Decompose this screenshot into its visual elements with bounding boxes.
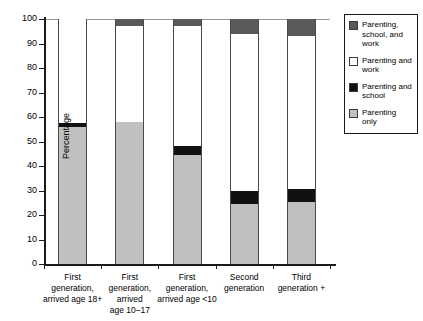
bar-segment-parenting-school-and-work[interactable] (174, 19, 201, 26)
bar-segment-parenting-school-and-work[interactable] (116, 19, 143, 26)
stacked-bar[interactable] (173, 19, 202, 264)
x-axis-label: Thirdgeneration + (267, 272, 336, 294)
x-tick-mark (216, 264, 217, 269)
bar-segment-parenting-school-and-work[interactable] (231, 19, 258, 34)
legend-item[interactable]: Parenting and school (349, 82, 413, 101)
legend-label: Parenting only (362, 108, 413, 127)
bar-segment-parenting-and-work[interactable] (116, 26, 143, 122)
bar-slot (115, 19, 144, 264)
legend-swatch-parenting-only (349, 109, 358, 118)
y-tick-mark (39, 93, 44, 94)
y-tick-mark (39, 166, 44, 167)
y-tick-label: 70 (4, 87, 37, 98)
y-tick-label: 80 (4, 62, 37, 73)
x-axis-label-line: Third (267, 272, 336, 283)
y-tick-label: 20 (4, 209, 37, 220)
chart-figure: 0102030405060708090100 Percentage Firstg… (0, 0, 423, 321)
x-tick-mark (330, 264, 331, 269)
legend-item[interactable]: Parenting only (349, 108, 413, 127)
bar-segment-parenting-only[interactable] (231, 204, 258, 264)
y-tick-label: 10 (4, 234, 37, 245)
x-tick-mark (158, 264, 159, 269)
bar-segment-parenting-only[interactable] (174, 155, 201, 264)
x-axis-label-line: age 10–17 (95, 305, 164, 316)
bar-segment-parenting-and-school[interactable] (231, 191, 258, 204)
y-tick-mark (39, 19, 44, 20)
x-axis-label-line: generation + (267, 283, 336, 294)
legend-swatch-parenting-and-school (349, 83, 358, 92)
legend-item[interactable]: Parenting and work (349, 56, 413, 75)
legend-label: Parenting, school, and work (362, 20, 413, 49)
y-tick-mark (39, 44, 44, 45)
y-tick-mark (39, 191, 44, 192)
bar-segment-parenting-and-work[interactable] (174, 26, 201, 146)
bar-segment-parenting-and-work[interactable] (231, 34, 258, 191)
legend-label: Parenting and school (362, 82, 413, 101)
bar-segment-parenting-school-and-work[interactable] (288, 19, 315, 36)
bar-segment-parenting-and-school[interactable] (174, 146, 201, 155)
y-tick-mark (39, 68, 44, 69)
legend-item[interactable]: Parenting, school, and work (349, 20, 413, 49)
x-axis-line (44, 264, 336, 266)
y-tick-label: 90 (4, 38, 37, 49)
y-tick-label: 0 (4, 258, 37, 269)
stacked-bar[interactable] (230, 19, 259, 264)
y-tick-mark (39, 117, 44, 118)
y-tick-mark (39, 142, 44, 143)
legend: Parenting, school, and workParenting and… (344, 14, 418, 134)
bar-segment-parenting-and-school[interactable] (288, 189, 315, 201)
y-tick-label: 30 (4, 185, 37, 196)
x-tick-mark (44, 264, 45, 269)
legend-swatch-parenting-school-and-work (349, 21, 358, 30)
y-tick-label: 50 (4, 136, 37, 147)
y-axis-title: Percentage (61, 86, 71, 186)
y-tick-label: 60 (4, 111, 37, 122)
y-tick-mark (39, 215, 44, 216)
plot-area: 0102030405060708090100 Percentage (44, 19, 330, 264)
legend-swatch-parenting-and-work (349, 57, 358, 66)
bar-slot (173, 19, 202, 264)
y-tick-label: 100 (4, 13, 37, 24)
x-tick-mark (273, 264, 274, 269)
y-tick-label: 40 (4, 160, 37, 171)
bar-slot (287, 19, 316, 264)
x-tick-mark (101, 264, 102, 269)
bar-segment-parenting-and-work[interactable] (288, 36, 315, 189)
legend-label: Parenting and work (362, 56, 413, 75)
bar-segment-parenting-only[interactable] (288, 202, 315, 264)
y-tick-mark (39, 240, 44, 241)
stacked-bar[interactable] (115, 19, 144, 264)
bar-segment-parenting-only[interactable] (116, 122, 143, 264)
bar-slot (230, 19, 259, 264)
x-axis-label-line: arrived age <10 (152, 294, 221, 305)
stacked-bar[interactable] (287, 19, 316, 264)
